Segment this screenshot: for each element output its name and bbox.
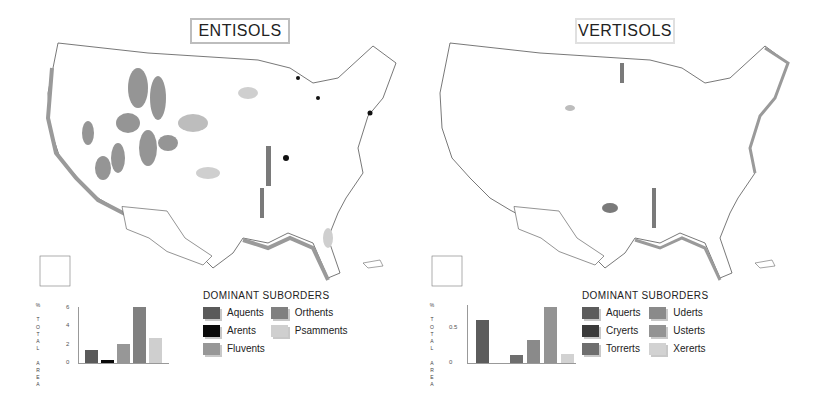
y-axis-label: % TOTAL AREA xyxy=(427,302,437,388)
bar-uderts xyxy=(527,340,540,363)
swatch-icon xyxy=(649,307,666,319)
legend-item-orthents: Orthents xyxy=(271,305,348,320)
legend-item-aquerts: Aquerts xyxy=(582,305,643,320)
swatch-icon xyxy=(203,325,220,337)
bar-torrerts xyxy=(510,355,523,363)
bar-xererts xyxy=(561,354,574,363)
legend-item-fluvents: Fluvents xyxy=(203,341,265,356)
legend-item-cryerts: Cryerts xyxy=(582,323,643,338)
legend-item-psamments: Psamments xyxy=(271,323,348,338)
bar-psamments xyxy=(149,338,162,363)
entisols-us-map xyxy=(28,38,408,288)
vertisols-bar-chart: % TOTAL AREA 0.5 0 xyxy=(427,300,577,370)
y-tick: 2 xyxy=(66,341,69,347)
bar-fluvents xyxy=(117,344,130,363)
swatch-icon xyxy=(649,325,666,337)
bar-aquerts xyxy=(476,320,489,363)
legend-item-arents: Arents xyxy=(203,323,265,338)
legend-title: DOMINANT SUBORDERS xyxy=(582,290,708,301)
y-tick: 6 xyxy=(66,304,69,310)
y-tick: 0 xyxy=(449,359,452,365)
legend-item-uderts: Uderts xyxy=(649,305,708,320)
y-tick: 0.5 xyxy=(449,324,457,330)
bar-arents xyxy=(101,360,114,363)
legend-item-usterts: Usterts xyxy=(649,323,708,338)
legend-title: DOMINANT SUBORDERS xyxy=(203,290,348,301)
vertisols-us-map xyxy=(420,38,800,288)
swatch-icon xyxy=(582,343,599,355)
swatch-icon xyxy=(649,343,666,355)
bar-aquents xyxy=(85,350,98,363)
swatch-icon xyxy=(582,325,599,337)
swatch-icon xyxy=(271,307,288,319)
y-tick: 4 xyxy=(66,322,69,328)
vertisols-panel: VERTISOLS % TOTAL AREA 0.5 0 xyxy=(415,0,830,393)
legend-item-aquents: Aquents xyxy=(203,305,265,320)
entisols-panel: ENTISOLS xyxy=(0,0,415,393)
bar-orthents xyxy=(133,307,146,363)
swatch-icon xyxy=(203,307,220,319)
swatch-icon xyxy=(271,325,288,337)
swatch-icon xyxy=(582,307,599,319)
plot-area xyxy=(467,305,576,364)
bar-usterts xyxy=(544,307,557,363)
y-tick: 0 xyxy=(66,359,69,365)
legend-item-xererts: Xererts xyxy=(649,341,708,356)
legend-item-torrerts: Torrerts xyxy=(582,341,643,356)
entisols-legend: DOMINANT SUBORDERS Aquents Orthents Aren… xyxy=(203,290,348,356)
entisols-bar-chart: % TOTAL AREA 6 4 2 0 xyxy=(33,300,173,370)
y-axis-label: % TOTAL AREA xyxy=(33,302,43,388)
plot-area xyxy=(78,307,169,364)
swatch-icon xyxy=(203,343,220,355)
vertisols-legend: DOMINANT SUBORDERS Aquerts Uderts Cryert… xyxy=(582,290,708,356)
